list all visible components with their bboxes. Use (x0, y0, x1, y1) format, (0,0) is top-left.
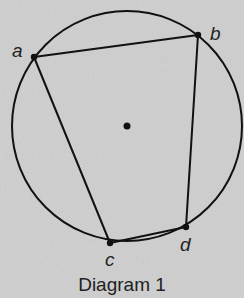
label-b: b (210, 24, 221, 43)
point-c (107, 240, 113, 246)
center-point (124, 123, 131, 130)
diagram-caption: Diagram 1 (0, 275, 244, 294)
point-d (183, 224, 189, 230)
point-a (31, 54, 37, 60)
inscribed-quadrilateral-diagram (0, 0, 244, 298)
label-d: d (180, 235, 191, 254)
label-c: c (105, 250, 115, 269)
point-b (195, 32, 201, 38)
label-a: a (12, 41, 23, 60)
